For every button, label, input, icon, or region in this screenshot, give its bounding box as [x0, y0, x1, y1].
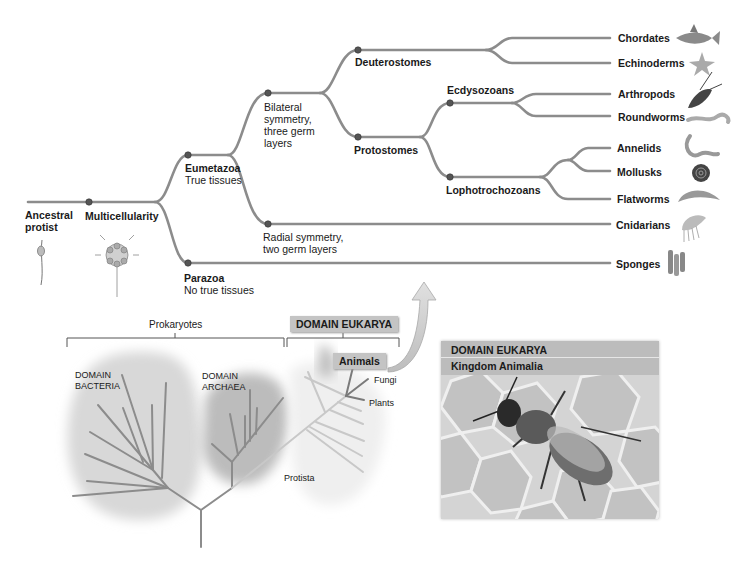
- prokaryotes-bracket: [67, 333, 284, 347]
- archaea-line1: DOMAIN: [202, 371, 246, 382]
- archaea-line2: ARCHAEA: [202, 382, 246, 393]
- fungi-label: Fungi: [374, 375, 397, 386]
- photo-domain-label: DOMAIN EUKARYA: [451, 344, 547, 356]
- bacteria-line2: BACTERIA: [75, 381, 120, 392]
- domain-eukarya-label: DOMAIN EUKARYA: [290, 316, 398, 332]
- domain-bacteria-label: DOMAIN BACTERIA: [75, 370, 120, 392]
- domain-archaea-label: DOMAIN ARCHAEA: [202, 371, 246, 393]
- header-divider: [441, 357, 659, 358]
- eukarya-bracket: [287, 333, 399, 347]
- honeybee-photo-panel: DOMAIN EUKARYA Kingdom Animalia: [441, 341, 659, 519]
- photo-panel-header: DOMAIN EUKARYA Kingdom Animalia: [441, 341, 659, 375]
- plants-label: Plants: [369, 398, 394, 409]
- protista-label: Protista: [284, 473, 315, 484]
- photo-kingdom-label: Kingdom Animalia: [451, 360, 543, 372]
- bacteria-line1: DOMAIN: [75, 370, 120, 381]
- animals-label: Animals: [333, 353, 386, 369]
- prokaryotes-label: Prokaryotes: [149, 319, 202, 330]
